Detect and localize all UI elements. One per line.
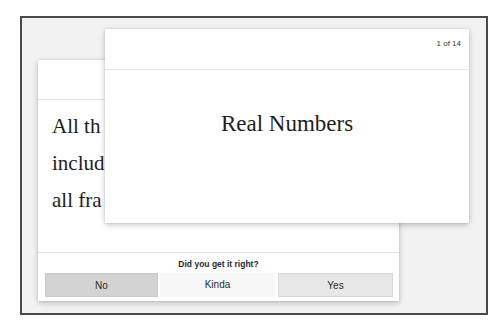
no-button[interactable]: No	[45, 273, 158, 297]
feedback-footer: Did you get it right? No Kinda Yes	[38, 252, 399, 301]
feedback-prompt: Did you get it right?	[38, 259, 399, 269]
card-counter: 1 of 14	[437, 39, 461, 48]
yes-button[interactable]: Yes	[278, 273, 393, 297]
flashcard-viewer-frame: All th includ all fra Did you get it rig…	[20, 16, 488, 315]
feedback-button-row: No Kinda Yes	[45, 273, 393, 297]
flashcard-front[interactable]: 1 of 14 Real Numbers	[105, 29, 469, 223]
kinda-button[interactable]: Kinda	[160, 273, 275, 297]
front-card-header: 1 of 14	[105, 29, 469, 70]
question-text: Real Numbers	[105, 111, 469, 137]
